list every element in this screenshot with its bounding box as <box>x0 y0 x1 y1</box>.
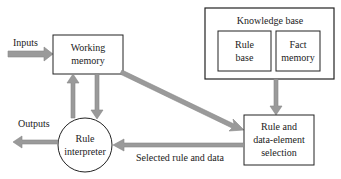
rule-base-line1: Rule <box>235 39 254 50</box>
selection-line2: data-element <box>253 134 305 145</box>
interpreter-to-memory-arrow <box>67 74 79 118</box>
fact-memory-box <box>276 31 320 71</box>
selection-line1: Rule and <box>261 121 297 132</box>
working-memory-line2: memory <box>71 55 104 66</box>
selected-label: Selected rule and data <box>136 152 225 163</box>
rule-interpreter-circle <box>58 118 112 172</box>
rule-interpreter-line2: interpreter <box>64 146 106 157</box>
fact-memory-line1: Fact <box>289 39 306 50</box>
rule-interpreter-line1: Rule <box>76 133 95 144</box>
selection-to-interpreter-arrow <box>113 139 244 151</box>
inputs-label: Inputs <box>13 37 38 48</box>
memory-to-interpreter-arrow <box>91 74 103 119</box>
fact-memory-line2: memory <box>281 52 314 63</box>
inputs-arrow <box>8 47 53 61</box>
knowledge-base-title: Knowledge base <box>237 15 304 26</box>
selection-line3: selection <box>261 147 297 158</box>
rule-base-box <box>218 31 271 71</box>
working-memory-line1: Working <box>71 42 106 53</box>
knowledge-to-selection-arrow <box>270 79 282 115</box>
outputs-arrow <box>13 136 58 148</box>
rule-based-system-diagram: Inputs Working memory Knowledge base Rul… <box>0 0 341 179</box>
outputs-label: Outputs <box>18 118 50 129</box>
rule-base-line2: base <box>236 52 254 63</box>
